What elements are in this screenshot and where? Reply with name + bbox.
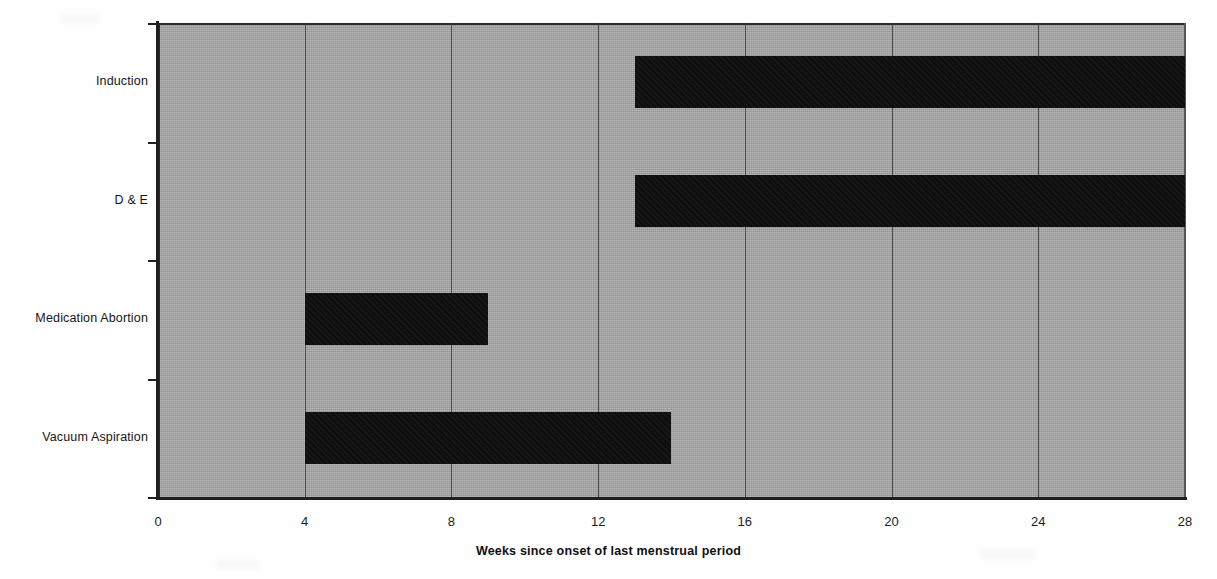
x-tick-label-4: 4 [301,514,308,529]
x-tick-label-20: 20 [884,514,898,529]
scan-artifact [215,560,260,569]
y-axis-tick [148,379,157,381]
y-axis-tick [148,142,157,144]
x-axis-title: Weeks since onset of last menstrual peri… [0,544,1217,558]
y-axis-tick [148,497,157,499]
x-axis-line [156,497,1187,500]
bar-induction [635,56,1185,108]
bar-d-e [635,175,1185,227]
y-axis-tick [148,23,157,25]
scan-artifact [60,14,100,24]
bar-vacuum-aspiration [305,412,672,464]
x-tick-label-28: 28 [1178,514,1192,529]
y-axis-label-d-e: D & E [115,193,148,207]
y-axis-label-vacuum-aspiration: Vacuum Aspiration [42,430,148,444]
y-axis-label-medication-abortion: Medication Abortion [35,311,148,325]
bar-medication-abortion [305,293,488,345]
y-axis-tick [148,260,157,262]
x-tick-label-24: 24 [1031,514,1045,529]
x-tick-label-12: 12 [591,514,605,529]
y-axis-label-induction: Induction [96,74,148,88]
x-tick-label-16: 16 [738,514,752,529]
chart-figure: InductionD & EMedication AbortionVacuum … [0,0,1217,579]
x-tick-label-0: 0 [154,514,161,529]
x-tick-label-8: 8 [448,514,455,529]
